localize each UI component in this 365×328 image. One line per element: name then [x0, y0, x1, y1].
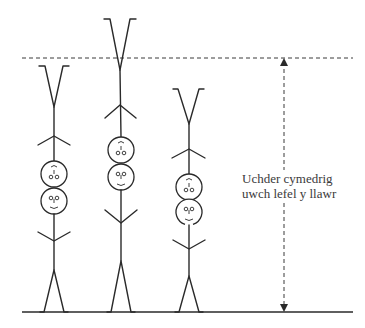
upright-head	[108, 164, 134, 190]
arrow-head-down-icon	[280, 304, 288, 312]
inverted-figure-legs	[39, 66, 69, 107]
inverted-figure-legs	[104, 19, 136, 70]
inverted-head	[176, 174, 202, 200]
inverted-figure-body	[120, 70, 121, 137]
upright-figure-legs	[40, 270, 68, 312]
upright-head	[176, 199, 202, 224]
inverted-head	[41, 161, 67, 187]
upright-figure-legs	[107, 261, 135, 312]
upright-head	[41, 188, 67, 214]
figure-stack-1	[38, 66, 70, 312]
inverted-figure-legs	[173, 89, 204, 124]
inverted-head	[108, 137, 134, 163]
stacked-figures-diagram: Uchder cymedrig uwch lefel y llawr	[0, 0, 365, 328]
annotation-line-2: uwch lefel y llawr	[242, 186, 337, 201]
figure-stack-3	[172, 89, 205, 312]
arrow-head-up-icon	[280, 58, 288, 66]
figure-stack-2	[104, 19, 137, 312]
annotation-line-1: Uchder cymedrig	[242, 171, 333, 186]
upright-figure-legs	[175, 276, 203, 312]
